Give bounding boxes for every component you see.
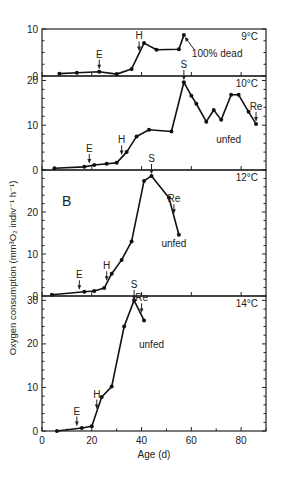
data-point [135, 134, 139, 138]
annotation-label: S [181, 59, 188, 70]
annotation-label: unfed [216, 134, 241, 145]
data-point [55, 429, 59, 433]
y-tick-label: 20 [27, 338, 39, 349]
data-point [82, 290, 86, 294]
annotation-label: 100% dead [192, 48, 243, 59]
data-point [125, 150, 129, 154]
data-point [130, 239, 134, 243]
x-tick-label: 80 [236, 435, 248, 446]
data-point [189, 94, 193, 98]
data-point [57, 72, 61, 76]
data-point [229, 93, 233, 97]
data-point [142, 179, 146, 183]
annotation-label: H [93, 389, 100, 400]
annotation-label: H [135, 30, 142, 41]
data-point [110, 272, 114, 276]
data-point [237, 93, 241, 97]
temperature-label: 9°C [241, 31, 258, 42]
annotation-label: Re [168, 193, 181, 204]
y-tick-label: 10 [27, 249, 39, 260]
annotation-label: H [118, 134, 125, 145]
data-point [177, 47, 181, 51]
annotation-label: unfed [161, 238, 186, 249]
annotation-label: E [74, 406, 81, 417]
data-point [204, 120, 208, 124]
data-point [142, 41, 146, 45]
data-point [92, 289, 96, 293]
data-point [212, 108, 216, 112]
x-axis-label: Age (d) [138, 449, 171, 460]
annotations: 9°CEH100% dead10°CSEHReunfed12°CSEHReunf… [74, 30, 263, 425]
data-point [115, 72, 119, 76]
data-point [80, 426, 84, 430]
panel-frames [42, 29, 266, 431]
y-tick-label: 30 [27, 295, 39, 306]
data-point [122, 324, 126, 328]
data-point [92, 163, 96, 167]
data-point [110, 385, 114, 389]
x-tick-label: 40 [136, 435, 148, 446]
annotation-label: S [131, 279, 138, 290]
temperature-label: 12°C [236, 172, 258, 183]
data-point [82, 165, 86, 169]
data-point [147, 128, 151, 132]
annotation-label: S [148, 153, 155, 164]
data-point [182, 33, 186, 37]
x-tick-label: 20 [86, 435, 98, 446]
y-tick-label: 0 [32, 165, 38, 176]
data-point [194, 102, 198, 106]
data-point [177, 233, 181, 237]
y-tick-label: 20 [27, 75, 39, 86]
data-point [219, 118, 223, 122]
data-point [115, 161, 119, 165]
data-point [130, 67, 134, 71]
data-point [182, 80, 186, 84]
y-tick-label: 10 [27, 382, 39, 393]
axes: 01001020010200102030020406080 [27, 24, 266, 447]
data-point [102, 286, 106, 290]
data-point [150, 174, 154, 178]
y-tick-label: 10 [27, 24, 39, 35]
annotation-label: E [86, 143, 93, 154]
data-series [50, 33, 258, 433]
annotation-label: Re [135, 292, 148, 303]
data-point [52, 166, 56, 170]
annotation-label: E [96, 49, 103, 60]
oxygen-consumption-chart: 9°CEH100% dead10°CSEHReunfed12°CSEHReunf… [0, 0, 282, 480]
y-tick-label: 0 [32, 426, 38, 437]
data-point [142, 318, 146, 322]
panel-label: B [62, 193, 71, 209]
y-tick-label: 10 [27, 120, 39, 131]
data-point [169, 130, 173, 134]
data-point [105, 162, 109, 166]
data-point [97, 70, 101, 74]
x-tick-label: 60 [186, 435, 198, 446]
data-point [90, 424, 94, 428]
data-point [254, 122, 258, 126]
annotation-label: E [76, 269, 83, 280]
y-axis-label: Oxygen consumption (mm³O₂ indiv⁻¹ h⁻¹) [7, 181, 18, 356]
temperature-label: 14°C [236, 298, 258, 309]
annotation-label: unfed [139, 339, 164, 350]
data-point [120, 258, 124, 262]
x-tick-label: 0 [39, 435, 45, 446]
data-point [75, 71, 79, 75]
y-tick-label: 20 [27, 207, 39, 218]
data-point [154, 48, 158, 52]
temperature-label: 10°C [236, 78, 258, 89]
annotation-label: Re [250, 101, 263, 112]
annotation-label: H [103, 260, 110, 271]
data-point [50, 293, 54, 297]
